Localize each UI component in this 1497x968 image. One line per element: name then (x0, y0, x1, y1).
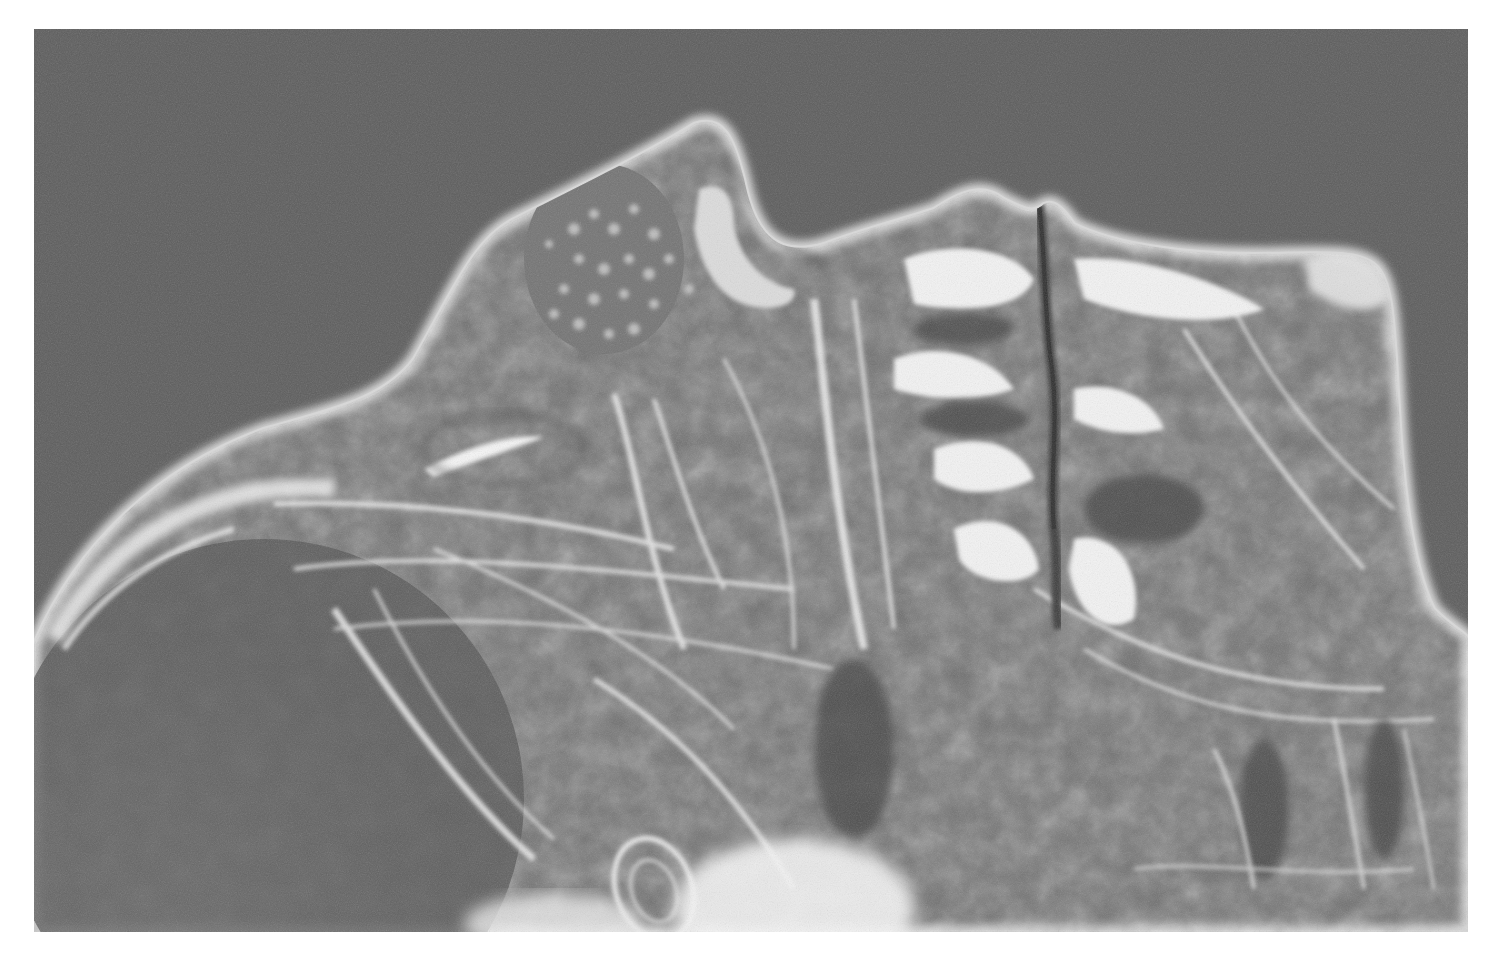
radiograph-svg (34, 29, 1468, 932)
page (0, 0, 1497, 968)
radiograph-image (34, 29, 1468, 932)
